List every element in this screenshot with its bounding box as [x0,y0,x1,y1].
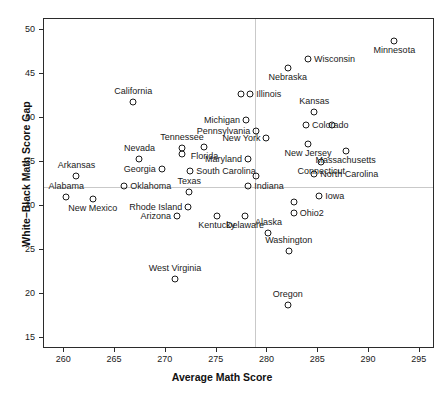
data-point [238,90,245,97]
data-point [242,213,249,220]
point-label: Georgia [124,165,156,174]
data-point [187,168,194,175]
y-tick-label: 45 [25,68,35,78]
data-point [130,98,137,105]
point-label: Wisconsin [314,55,355,64]
data-point [284,302,291,309]
point-label: Minnesota [374,46,416,55]
point-label: Ohio2 [300,209,324,218]
data-point [290,210,297,217]
plot-inner: MinnesotaWisconsinNebraskaIllinoisCalifo… [44,19,433,347]
data-point [247,90,254,97]
y-tick-label: 30 [25,200,35,210]
y-tick-label: 15 [25,332,35,342]
data-point [342,148,349,155]
point-label: Illinois [256,89,281,98]
point-label: Nevada [124,144,155,153]
x-tick-label: 265 [107,354,122,364]
data-point [305,56,312,63]
x-tick [266,348,267,352]
point-label: Oklahoma [130,182,171,191]
x-tick-label: 275 [208,354,223,364]
scatter-plot-figure: White–Black Math Score Gap Average Math … [0,0,444,396]
data-point [311,170,318,177]
x-tick-label: 285 [310,354,325,364]
horizontal-reference-line [44,187,433,188]
data-point [213,213,220,220]
point-label: California [114,87,152,96]
point-label: Oregon [273,290,303,299]
x-tick-label: 290 [360,354,375,364]
point-label: Washington [265,236,312,245]
point-label: New York [222,133,260,142]
x-tick [63,348,64,352]
data-point [63,193,70,200]
x-tick [165,348,166,352]
data-point [121,183,128,190]
point-label: West Virginia [149,264,202,273]
data-point [89,195,96,202]
y-tick-label: 35 [25,156,35,166]
x-tick [216,348,217,352]
x-tick-label: 295 [411,354,426,364]
data-point [285,248,292,255]
y-tick-label: 40 [25,112,35,122]
x-tick-label: 280 [259,354,274,364]
data-point [136,155,143,162]
x-tick [317,348,318,352]
point-label: Alabama [49,182,85,191]
point-label: Massachusetts [316,156,376,165]
x-tick [368,348,369,352]
point-label: Indiana [254,182,284,191]
point-label: North Carolina [320,169,378,178]
data-point [158,166,165,173]
data-point [284,65,291,72]
point-label: South Carolina [196,167,256,176]
data-point [305,140,312,147]
data-point [329,121,336,128]
data-point [172,275,179,282]
data-point [186,189,193,196]
point-label: Alaska [255,218,282,227]
data-point [245,155,252,162]
point-label: Arkansas [58,161,96,170]
data-point [245,183,252,190]
point-label: New Mexico [68,204,117,213]
point-label: Texas [177,177,201,186]
x-tick-label: 260 [56,354,71,364]
data-point [243,117,250,124]
data-point [263,134,270,141]
point-label: Nebraska [268,73,307,82]
data-point [73,172,80,179]
x-tick [419,348,420,352]
point-label: Tennessee [160,133,204,142]
x-axis-label: Average Math Score [0,371,444,383]
data-point [290,199,297,206]
point-label: Kansas [299,97,329,106]
data-point [179,150,186,157]
point-label: Michigan [204,116,240,125]
x-tick [114,348,115,352]
y-tick-label: 25 [25,244,35,254]
data-point [303,121,310,128]
data-point [391,38,398,45]
y-tick-label: 50 [25,24,35,34]
data-point [253,172,260,179]
data-point [311,109,318,116]
point-label: Iowa [325,191,344,200]
data-point [185,204,192,211]
x-tick-label: 270 [157,354,172,364]
data-point [174,213,181,220]
point-label: Maryland [205,154,242,163]
data-point [316,192,323,199]
plot-area: MinnesotaWisconsinNebraskaIllinoisCalifo… [43,18,434,348]
y-tick-label: 20 [25,288,35,298]
data-point [201,143,208,150]
point-label: Arizona [141,212,172,221]
